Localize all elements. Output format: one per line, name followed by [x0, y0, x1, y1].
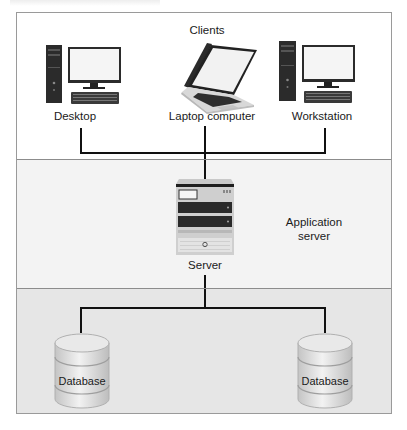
architecture-diagram: Clients Desktop	[16, 12, 392, 414]
desktop-computer-icon	[45, 43, 123, 105]
tier-title-clients: Clients	[187, 24, 227, 36]
connector-data-bus	[80, 307, 326, 309]
tier-title-application-line2: server	[279, 229, 349, 243]
connector-server-to-bus	[204, 289, 206, 309]
node-label-db1: Database	[53, 375, 111, 387]
database-cylinder-icon	[53, 333, 111, 409]
workstation-computer-icon	[278, 39, 356, 105]
node-label-workstation: Workstation	[287, 110, 357, 122]
connector-workstation	[324, 128, 326, 154]
tier-clients: Clients Desktop	[17, 13, 391, 159]
cropped-heading-remnant	[10, 0, 160, 6]
server-rack-icon	[175, 176, 237, 256]
connector-server-down	[204, 275, 206, 289]
node-label-server: Server	[182, 259, 228, 271]
tier-application: Server Application server	[17, 159, 391, 288]
tier-data: Database Database	[17, 288, 391, 414]
connector-db1	[80, 307, 82, 333]
connector-db2	[324, 307, 326, 333]
laptop-icon	[177, 40, 259, 115]
connector-desktop	[80, 128, 82, 154]
tier-title-application-line1: Application	[279, 215, 349, 229]
tier-title-application: Application server	[279, 215, 349, 243]
node-label-laptop: Laptop computer	[167, 110, 257, 122]
node-label-desktop: Desktop	[45, 110, 105, 122]
connector-client-bus	[80, 152, 326, 154]
database-cylinder-icon	[296, 333, 354, 409]
node-label-db2: Database	[296, 375, 354, 387]
connector-laptop	[204, 126, 206, 159]
